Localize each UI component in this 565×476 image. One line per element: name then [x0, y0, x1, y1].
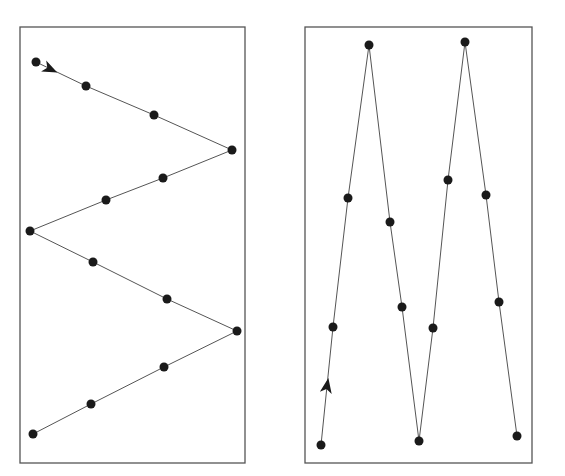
path-point [386, 218, 395, 227]
path-point [150, 111, 159, 120]
path-line [321, 42, 517, 445]
path-point [444, 176, 453, 185]
panel-border [305, 27, 532, 463]
path-point [482, 191, 491, 200]
path-point [32, 58, 41, 67]
path-point [29, 430, 38, 439]
direction-arrow-icon [320, 377, 334, 394]
path-point [495, 298, 504, 307]
path-point [344, 194, 353, 203]
path-point [228, 146, 237, 155]
path-point [159, 174, 168, 183]
path-point [513, 432, 522, 441]
path-point [317, 441, 326, 450]
panel-zigzag-horizontal [20, 27, 245, 463]
path-point [365, 41, 374, 50]
panel-border [20, 27, 245, 463]
path-point [26, 227, 35, 236]
path-point [429, 324, 438, 333]
direction-arrow-icon [41, 61, 60, 78]
path-point [415, 437, 424, 446]
path-point [461, 38, 470, 47]
figure-canvas [0, 0, 565, 476]
panel-zigzag-vertical [305, 27, 532, 463]
path-point [398, 303, 407, 312]
path-point [102, 196, 111, 205]
path-point [329, 323, 338, 332]
path-point [87, 400, 96, 409]
path-point [160, 363, 169, 372]
path-point [89, 258, 98, 267]
path-line [30, 62, 237, 434]
path-point [82, 82, 91, 91]
path-point [233, 327, 242, 336]
path-point [163, 295, 172, 304]
